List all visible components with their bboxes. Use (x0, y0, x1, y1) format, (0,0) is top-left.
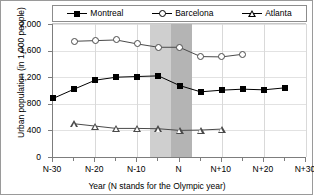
x-tick-label: N+20 (253, 165, 274, 174)
series-line-montreal (53, 76, 285, 99)
data-point-montreal (113, 74, 119, 80)
data-point-montreal (92, 77, 98, 83)
data-point-montreal (50, 95, 56, 101)
data-point-barcelona (92, 37, 99, 44)
data-point-montreal (177, 83, 183, 89)
x-tick-mark-minor (157, 158, 158, 161)
y-tick-label: 400 (27, 126, 41, 135)
x-tick-mark-minor (284, 158, 285, 161)
data-point-montreal (134, 74, 140, 80)
legend-label-barcelona: Barcelona (175, 9, 213, 18)
x-tick-label: N+30 (295, 165, 314, 174)
chart-legend: Montreal Barcelona Atlanta (52, 5, 307, 22)
x-tick-mark (94, 158, 95, 162)
urban-population-chart: Montreal Barcelona Atlanta 04008001,2001… (0, 0, 314, 196)
filled-square-icon (67, 9, 87, 18)
data-point-atlanta (218, 126, 226, 133)
x-tick-label: N (175, 165, 181, 174)
data-point-montreal (261, 87, 267, 93)
data-point-barcelona (155, 44, 162, 51)
x-tick-mark (263, 158, 264, 162)
data-point-atlanta (176, 127, 184, 134)
data-point-barcelona (176, 44, 183, 51)
data-point-atlanta (197, 127, 205, 134)
data-point-atlanta (70, 120, 78, 127)
data-point-montreal (71, 86, 77, 92)
legend-item-barcelona: Barcelona (152, 9, 213, 18)
x-tick-mark (305, 158, 306, 162)
gridline-vertical (306, 24, 307, 157)
x-tick-mark-minor (73, 158, 74, 161)
data-point-montreal (219, 87, 225, 93)
x-tick-label: N+10 (210, 165, 231, 174)
y-tick-label: 800 (27, 99, 41, 108)
legend-label-montreal: Montreal (90, 9, 123, 18)
x-tick-mark (179, 158, 180, 162)
plot-area (52, 24, 306, 158)
data-point-montreal (282, 85, 288, 91)
open-circle-icon (152, 9, 172, 18)
y-axis-label: Urban population (in 1,000 people) (16, 8, 26, 138)
data-point-atlanta (112, 125, 120, 132)
data-point-barcelona (239, 51, 246, 58)
data-point-montreal (198, 89, 204, 95)
x-tick-label: N-20 (85, 165, 103, 174)
legend-label-atlanta: Atlanta (265, 9, 291, 18)
data-point-montreal (155, 73, 161, 79)
x-tick-label: N-30 (43, 165, 61, 174)
legend-item-montreal: Montreal (67, 9, 123, 18)
x-tick-mark-minor (115, 158, 116, 161)
legend-item-atlanta: Atlanta (242, 9, 291, 18)
open-triangle-icon (242, 9, 262, 18)
x-axis-label: Year (N stands for the Olympic year) (0, 181, 314, 191)
data-point-montreal (240, 86, 246, 92)
data-point-barcelona (71, 38, 78, 45)
data-point-atlanta (154, 125, 162, 132)
y-tick-label: 0 (36, 153, 41, 162)
data-point-atlanta (133, 125, 141, 132)
x-tick-mark (52, 158, 53, 162)
x-tick-mark-minor (242, 158, 243, 161)
x-tick-mark-minor (200, 158, 201, 161)
x-tick-mark (136, 158, 137, 162)
data-point-atlanta (91, 123, 99, 130)
x-tick-mark (221, 158, 222, 162)
x-tick-label: N-10 (127, 165, 145, 174)
